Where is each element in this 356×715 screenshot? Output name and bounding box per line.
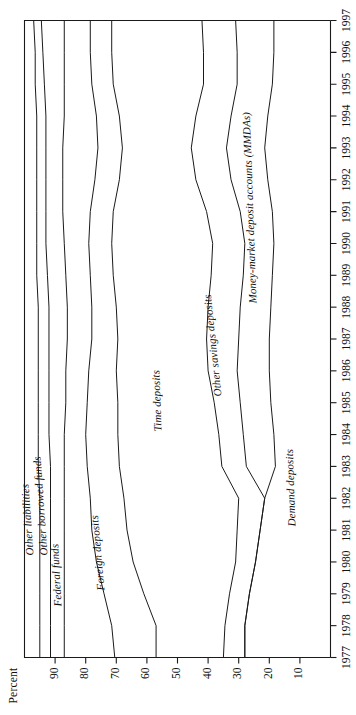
y-tick-label-30: 30 xyxy=(230,667,242,691)
series-line-other-liabilities xyxy=(33,20,39,657)
y-tick-label-10: 10 xyxy=(291,667,303,691)
x-tick-label-1997: 1997 xyxy=(339,2,351,38)
x-tick-label-1980: 1980 xyxy=(339,543,351,579)
x-tick-label-1996: 1996 xyxy=(339,34,351,70)
plot-area-wrapper: Percent 102030405060708090 1977197819791… xyxy=(0,0,356,715)
x-tick-label-1995: 1995 xyxy=(339,66,351,102)
plot-frame xyxy=(24,20,330,657)
y-tick-label-80: 80 xyxy=(77,667,89,691)
rotated-figure: Percent 102030405060708090 1977197819791… xyxy=(0,0,356,715)
x-tick-label-1993: 1993 xyxy=(339,129,351,165)
x-tick-label-1984: 1984 xyxy=(339,416,351,452)
x-tick-label-1991: 1991 xyxy=(339,193,351,229)
x-tick-label-1990: 1990 xyxy=(339,225,351,261)
y-tick-label-40: 40 xyxy=(200,667,212,691)
x-tick-label-1977: 1977 xyxy=(339,639,351,675)
x-tick-label-1978: 1978 xyxy=(339,607,351,643)
chart-page: Percent 102030405060708090 1977197819791… xyxy=(0,0,356,715)
y-tick-label-60: 60 xyxy=(138,667,150,691)
curve-label-demand-deposits: Demand deposits xyxy=(283,449,298,527)
x-tick-label-1985: 1985 xyxy=(339,384,351,420)
x-tick-label-1992: 1992 xyxy=(339,161,351,197)
curve-label-time-deposits: Time deposits xyxy=(148,369,162,431)
y-axis-title: Percent xyxy=(6,667,18,703)
x-tick-label-1986: 1986 xyxy=(339,352,351,388)
x-tick-label-1979: 1979 xyxy=(339,575,351,611)
y-tick-label-70: 70 xyxy=(108,667,120,691)
x-tick-label-1994: 1994 xyxy=(339,98,351,134)
x-tick-label-1983: 1983 xyxy=(339,448,351,484)
line-chart-svg xyxy=(0,0,356,715)
x-tick-label-1982: 1982 xyxy=(339,480,351,516)
x-tick-label-1988: 1988 xyxy=(339,289,351,325)
x-tick-label-1989: 1989 xyxy=(339,257,351,293)
series-line-federal-funds xyxy=(62,20,67,657)
y-tick-label-90: 90 xyxy=(47,667,59,691)
x-tick-label-1981: 1981 xyxy=(339,512,351,548)
series-line-time-deposits xyxy=(111,20,155,657)
y-tick-label-50: 50 xyxy=(169,667,181,691)
x-tick-label-1987: 1987 xyxy=(339,321,351,357)
y-tick-label-20: 20 xyxy=(261,667,273,691)
